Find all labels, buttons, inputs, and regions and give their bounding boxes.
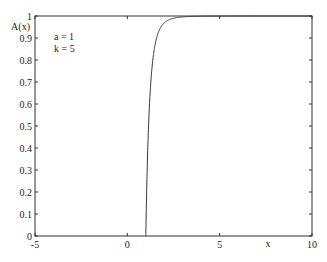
y-tick-label: 0.3 xyxy=(20,165,33,176)
axes-box xyxy=(35,16,312,236)
y-tick-label: 0.2 xyxy=(20,187,33,198)
y-tick-label: 0.8 xyxy=(20,55,33,66)
y-tick-label: 1 xyxy=(27,11,32,22)
x-tick-label: 5 xyxy=(217,239,222,250)
plot-frame xyxy=(35,16,312,236)
data-line xyxy=(146,16,312,236)
x-tick-label: -5 xyxy=(31,239,39,250)
y-tick-label: 0.4 xyxy=(20,143,33,154)
annotation-k: k = 5 xyxy=(54,43,75,54)
y-tick-label: 0.5 xyxy=(20,121,33,132)
y-tick-label: 0.1 xyxy=(20,209,33,220)
y-tick-label: 0.6 xyxy=(20,99,33,110)
y-tick-label: 0.7 xyxy=(20,77,33,88)
y-axis-label: A(x) xyxy=(11,21,30,33)
x-tick-label: 0 xyxy=(125,239,130,250)
chart: 00.10.20.30.40.50.60.70.80.91 -50510 A(x… xyxy=(0,0,327,262)
annotation-a: a = 1 xyxy=(54,31,74,42)
y-tick-label: 0.9 xyxy=(20,33,33,44)
x-axis-label: x xyxy=(266,238,271,249)
x-tick-label: 10 xyxy=(307,239,317,250)
